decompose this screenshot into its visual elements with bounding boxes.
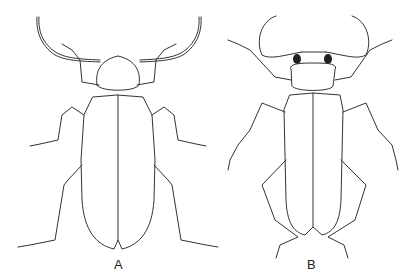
- specimen-label-b: B: [307, 257, 316, 272]
- beetle-drawings: [0, 0, 415, 280]
- specimen-label-a: A: [114, 257, 123, 272]
- beetle-figure: A B: [0, 0, 415, 280]
- beetle-a-drawing: [18, 17, 218, 249]
- beetle-b-drawing: [228, 16, 398, 258]
